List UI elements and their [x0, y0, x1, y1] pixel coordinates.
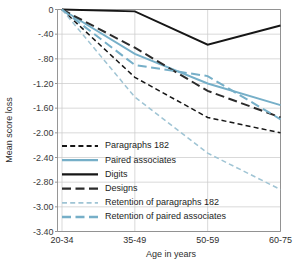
- legend-item-label: Retention of paragraphs 182: [105, 197, 219, 207]
- legend-item-label: Paired associates: [105, 155, 177, 165]
- y-axis-tick-label: -1.20: [33, 79, 54, 89]
- y-axis-tick-label: -2.00: [33, 128, 54, 138]
- x-axis-tick-label: 35-49: [123, 235, 146, 245]
- legend-item-label: Retention of paired associates: [105, 211, 227, 221]
- x-axis-title: Age in years: [146, 249, 197, 259]
- x-axis-tick-labels: 20-3435-4950-5960-75: [50, 235, 292, 245]
- y-axis-title: Mean score loss: [4, 97, 14, 163]
- legend-item-label: Designs: [105, 183, 138, 193]
- x-axis-tick-label: 50-59: [196, 235, 219, 245]
- legend-item-label: Paragraphs 182: [105, 140, 169, 150]
- y-axis-tick-label: -1.60: [33, 103, 54, 113]
- series-line-designs: [62, 10, 281, 118]
- y-axis-tick-label: -.40: [38, 29, 54, 39]
- line-chart: 0-.40-.80-1.20-1.60-2.00-2.40-2.80-3.00-…: [0, 0, 297, 261]
- chart-legend: Paragraphs 182Paired associatesDigitsDes…: [62, 140, 227, 221]
- y-axis-tick-label: -3.00: [33, 202, 54, 212]
- y-axis-tick-label: -2.80: [33, 177, 54, 187]
- legend-item-label: Digits: [105, 169, 128, 179]
- series-line-retention-of-paired-associates: [62, 10, 281, 120]
- y-axis-tick-label: -.80: [38, 54, 54, 64]
- series-line-paired-associates: [62, 10, 281, 106]
- x-axis-tick-label: 20-34: [50, 235, 73, 245]
- chart-figure: 0-.40-.80-1.20-1.60-2.00-2.40-2.80-3.00-…: [0, 0, 297, 261]
- y-axis-tick-labels: 0-.40-.80-1.20-1.60-2.00-2.40-2.80-3.00-…: [33, 5, 58, 237]
- y-axis-tick-label: -2.40: [33, 153, 54, 163]
- x-axis-tick-label: 60-75: [269, 235, 292, 245]
- y-axis-tick-label: 0: [48, 5, 53, 15]
